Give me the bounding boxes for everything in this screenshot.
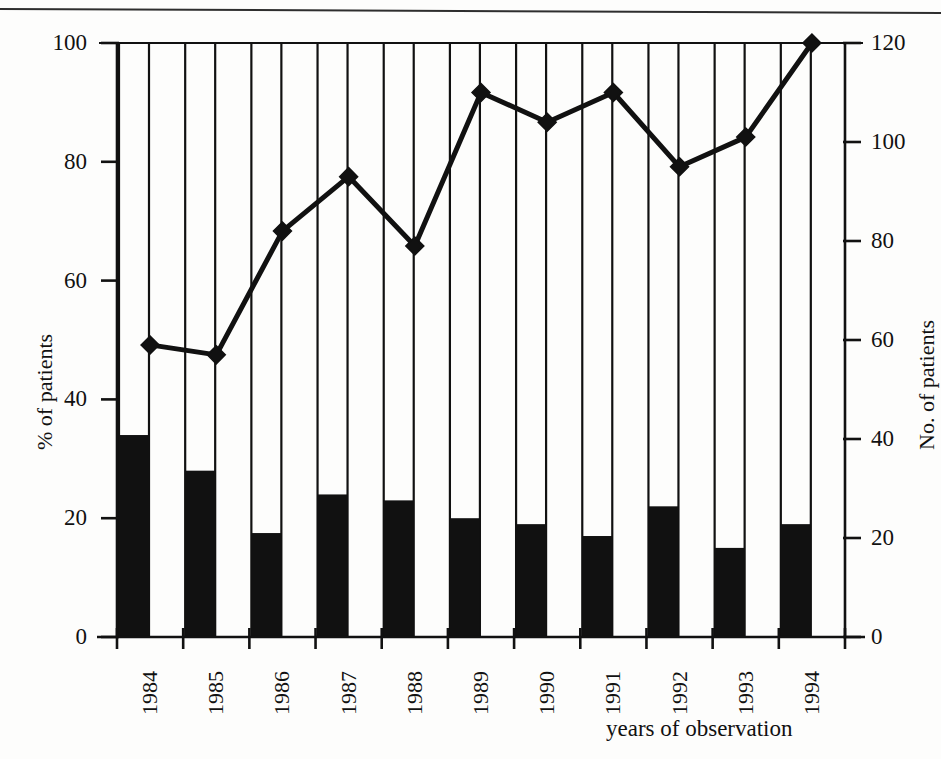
y-axis-left-tick-0: 0 [25,625,87,648]
x-axis-tick-1987: 1987 [338,671,360,715]
x-axis-tick-1993: 1993 [735,671,757,715]
y-axis-right-title: No. of patients [916,320,938,450]
y-axis-left-tick-20: 20 [25,506,87,529]
y-axis-left-tick-80: 80 [25,150,87,173]
bar-series [119,435,811,637]
y-axis-left-title: % of patients [34,334,56,450]
x-axis-tick-1984: 1984 [139,671,161,715]
x-axis-tick-1985: 1985 [205,671,227,715]
y-axis-right-tick-0: 0 [871,625,933,648]
y-axis-right-tick-120: 120 [871,31,933,54]
y-axis-right-tick-80: 80 [871,229,933,252]
y-axis-right-tick-100: 100 [871,130,933,153]
x-axis-tick-1991: 1991 [602,671,624,715]
chart-plot-svg [0,0,941,759]
x-axis-tick-1994: 1994 [801,671,823,715]
y-axis-left-tick-100: 100 [25,31,87,54]
y-axis-right-tick-20: 20 [871,526,933,549]
x-axis-tick-1990: 1990 [536,671,558,715]
x-axis-tick-1986: 1986 [271,671,293,715]
y-axis-left-tick-60: 60 [25,269,87,292]
page-canvas: 0204060801000204060801001201984198519861… [0,0,941,759]
chart-figure: 0204060801000204060801001201984198519861… [0,0,941,759]
x-axis-title: years of observation [606,717,793,740]
x-axis-tick-1989: 1989 [470,671,492,715]
x-axis-tick-1992: 1992 [669,671,691,715]
x-axis-tick-1988: 1988 [404,671,426,715]
